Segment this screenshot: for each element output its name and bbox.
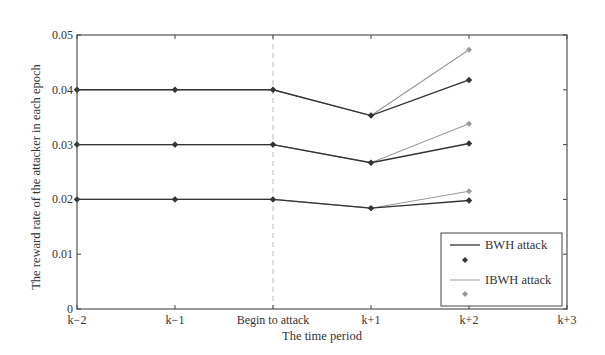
diamond-marker-icon (466, 77, 472, 83)
diamond-marker-icon (172, 196, 178, 202)
diamond-marker-icon (172, 141, 178, 147)
legend: BWH attack IBWH attack (441, 233, 562, 306)
x-tick-label: k+1 (362, 313, 381, 327)
diamond-marker-icon (270, 87, 276, 93)
diamond-marker-icon (466, 197, 472, 203)
diamond-marker-icon (270, 196, 276, 202)
x-tick-label: Begin to attack (237, 313, 310, 327)
legend-label-bwh: BWH attack (485, 238, 548, 252)
line-chart: 00.010.020.030.040.05 k−2k−1Begin to att… (0, 0, 605, 355)
diamond-marker-icon (466, 121, 472, 127)
x-tick-label: k−1 (166, 313, 185, 327)
y-tick-label: 0.03 (52, 138, 73, 152)
x-tick-label: k+3 (558, 313, 577, 327)
diamond-marker-icon (270, 141, 276, 147)
y-axis-label: The reward rate of the attacker in each … (29, 63, 43, 289)
diamond-marker-icon (368, 112, 374, 118)
diamond-marker-icon (368, 159, 374, 165)
y-tick-label: 0.04 (52, 83, 73, 97)
diamond-marker-icon (466, 47, 472, 53)
y-tick-label: 0.02 (52, 192, 73, 206)
legend-label-ibwh: IBWH attack (485, 273, 552, 287)
x-tick-label: k+2 (460, 313, 479, 327)
diamond-marker-icon (172, 87, 178, 93)
y-tick-label: 0.01 (52, 247, 73, 261)
x-tick-label: k−2 (68, 313, 87, 327)
x-axis-label: The time period (282, 329, 363, 343)
diamond-marker-icon (466, 140, 472, 146)
diamond-marker-icon (368, 205, 374, 211)
y-tick-label: 0.05 (52, 28, 73, 42)
diamond-marker-icon (466, 188, 472, 194)
